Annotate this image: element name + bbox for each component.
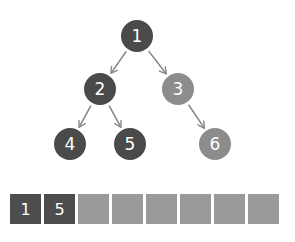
array-cell-value: 1 <box>20 200 30 219</box>
edge-arrow-2-5 <box>109 106 120 127</box>
tree-node-4: 4 <box>54 128 86 160</box>
edge-arrow-2-4 <box>80 106 91 127</box>
array-cell-5 <box>180 194 211 224</box>
array-cell-1: 5 <box>44 194 75 224</box>
edge-arrow-1-2 <box>111 52 126 73</box>
array-cell-4 <box>146 194 177 224</box>
node-label: 1 <box>132 26 143 46</box>
edge-arrow-1-3 <box>149 51 166 73</box>
edge-arrow-3-6 <box>189 105 204 128</box>
node-label: 6 <box>210 134 221 154</box>
tree-node-5: 5 <box>114 128 146 160</box>
tree-node-3: 3 <box>162 73 194 105</box>
node-label: 2 <box>95 79 106 99</box>
array-cell-0: 1 <box>10 194 41 224</box>
array-cell-2 <box>78 194 109 224</box>
array-cell-3 <box>112 194 143 224</box>
array-cell-value: 5 <box>54 200 64 219</box>
array-cell-6 <box>214 194 245 224</box>
tree-node-2: 2 <box>84 73 116 105</box>
node-label: 3 <box>173 79 184 99</box>
tree-node-1: 1 <box>121 20 153 52</box>
node-label: 4 <box>65 134 76 154</box>
tree-nodes: 123456 <box>54 20 231 160</box>
node-label: 5 <box>125 134 136 154</box>
tree-node-6: 6 <box>199 128 231 160</box>
tree-diagram: 123456 <box>0 0 295 185</box>
array-strip: 15 <box>10 194 279 224</box>
array-cell-7 <box>248 194 279 224</box>
